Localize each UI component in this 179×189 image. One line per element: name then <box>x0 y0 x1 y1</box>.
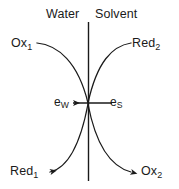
curve-center-to-red1 <box>50 104 88 172</box>
species-red1-subscript: 1 <box>33 170 38 180</box>
species-label-red1: Red1 <box>10 165 38 180</box>
curve-ox1-to-center <box>37 43 88 103</box>
curve-center-to-red2 <box>88 43 131 103</box>
species-red2-base: Red <box>132 36 155 50</box>
species-ox2-base: Ox <box>141 164 157 178</box>
electron-ew-base: e <box>54 95 61 109</box>
electron-label-solvent: eS <box>110 96 123 110</box>
species-ox2-subscript: 2 <box>157 170 162 180</box>
species-ox1-base: Ox <box>11 36 27 50</box>
species-ox1-subscript: 1 <box>27 42 32 52</box>
species-label-red2: Red2 <box>132 37 160 52</box>
phase-label-solvent: Solvent <box>95 8 137 21</box>
species-red2-subscript: 2 <box>155 42 160 52</box>
electron-label-water: eW <box>54 96 69 110</box>
electron-es-subscript: S <box>117 100 123 110</box>
curve-center-to-ox2 <box>88 104 131 172</box>
phase-label-water: Water <box>46 8 79 21</box>
species-label-ox1: Ox1 <box>11 37 32 52</box>
species-red1-base: Red <box>10 164 33 178</box>
electron-transfer-diagram: Water Solvent Ox1 Red2 Red1 Ox2 eW eS <box>0 0 179 189</box>
species-label-ox2: Ox2 <box>141 165 162 180</box>
electron-ew-subscript: W <box>61 100 69 110</box>
diagram-canvas <box>0 0 179 189</box>
electron-es-base: e <box>110 95 117 109</box>
